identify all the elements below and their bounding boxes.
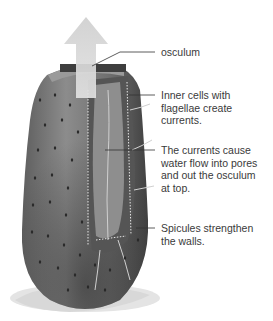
label-spicules: Spicules strengthen the walls. [161, 222, 253, 247]
label-inner-cells: Inner cells with flagellae create curren… [161, 89, 232, 127]
label-currents: The currents cause water flow into pores… [161, 144, 257, 194]
label-osculum: osculum [161, 46, 200, 59]
